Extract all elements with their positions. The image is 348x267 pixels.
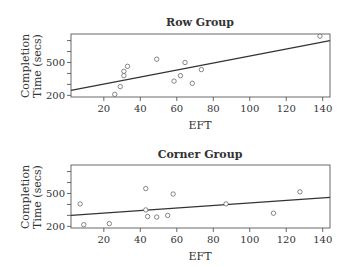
data-point [155, 215, 159, 219]
data-point [183, 60, 187, 64]
x-tick-label: 100 [240, 103, 259, 114]
data-point [165, 213, 169, 217]
x-tick-label: 20 [97, 234, 110, 245]
x-axis: 20406080100120140 [97, 97, 332, 114]
data-point [171, 192, 175, 196]
data-point [318, 34, 322, 38]
data-point [178, 73, 182, 77]
svg-text:Time (secs): Time (secs) [31, 165, 44, 229]
data-point [78, 202, 82, 206]
y-tick-label: 200 [46, 221, 65, 232]
x-tick-label: 140 [313, 103, 332, 114]
svg-text:Time (secs): Time (secs) [31, 34, 44, 98]
x-axis: 20406080100120140 [97, 228, 332, 245]
y-axis: 200500 [46, 172, 71, 232]
data-point [155, 57, 159, 61]
plot-frame [71, 165, 330, 228]
regression-line [71, 41, 330, 91]
x-axis-label: EFT [189, 250, 213, 263]
x-tick-label: 100 [240, 234, 259, 245]
x-tick-label: 120 [277, 103, 296, 114]
y-tick-label: 200 [46, 90, 65, 101]
x-tick-label: 80 [207, 234, 220, 245]
data-point [224, 202, 228, 206]
data-point [190, 81, 194, 85]
data-point [172, 79, 176, 83]
x-tick-label: 140 [313, 234, 332, 245]
row-group-plot: Row Group Completion Time (secs) 2040608… [0, 0, 348, 135]
chart-title: Corner Group [158, 148, 243, 161]
corner-group-chart: Corner Group Completion Time (secs) 2040… [0, 135, 348, 267]
x-tick-label: 40 [134, 103, 147, 114]
x-tick-label: 120 [277, 234, 296, 245]
x-axis-label: EFT [189, 119, 213, 132]
y-tick-label: 500 [46, 57, 65, 68]
data-point [122, 73, 126, 77]
x-tick-label: 60 [170, 103, 183, 114]
x-tick-label: 20 [97, 103, 110, 114]
data-point [113, 92, 117, 96]
y-tick-label: 500 [46, 188, 65, 199]
row-group-chart: Row Group Completion Time (secs) 2040608… [0, 0, 348, 135]
data-point [118, 84, 122, 88]
data-point [144, 208, 148, 212]
data-points [113, 34, 323, 97]
y-axis: 200500 [46, 41, 71, 101]
x-tick-label: 60 [170, 234, 183, 245]
data-point [107, 221, 111, 225]
data-point [298, 190, 302, 194]
x-tick-label: 40 [134, 234, 147, 245]
data-point [125, 64, 129, 68]
y-axis-label: Completion Time (secs) [19, 165, 44, 229]
data-point [271, 211, 275, 215]
x-tick-label: 80 [207, 103, 220, 114]
data-point [145, 214, 149, 218]
data-point [122, 69, 126, 73]
chart-title: Row Group [166, 16, 234, 29]
data-point [199, 67, 203, 71]
data-point [144, 186, 148, 190]
data-point [82, 223, 86, 227]
corner-group-plot: Corner Group Completion Time (secs) 2040… [0, 135, 348, 267]
y-axis-label: Completion Time (secs) [19, 34, 44, 98]
regression-line [71, 197, 330, 215]
